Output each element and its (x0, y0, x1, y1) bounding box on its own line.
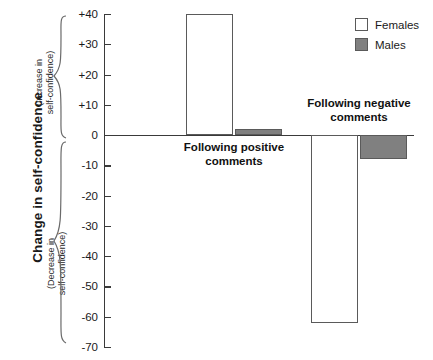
legend-label: Females (375, 19, 419, 31)
y-tick-mark (104, 75, 111, 76)
legend-swatch-females-icon (355, 18, 368, 31)
legend: FemalesMales (355, 18, 419, 58)
group-label-line1: Following positive (154, 141, 314, 155)
y-tick-mark (104, 14, 111, 15)
group-label-line2: comments (279, 111, 433, 125)
y-tick-mark (104, 317, 111, 318)
y-tick-label: -60 (81, 311, 98, 323)
bar-males-group2 (360, 135, 407, 159)
legend-item-females: Females (355, 18, 419, 31)
negative-region-brace (52, 140, 68, 345)
group-label-1: Following positivecomments (154, 141, 314, 168)
y-tick-label: +10 (78, 99, 98, 111)
y-axis-line (104, 14, 105, 347)
y-tick-label: -70 (81, 341, 98, 353)
group-label-line1: Following negative (279, 97, 433, 111)
y-tick-label: -30 (81, 220, 98, 232)
positive-region-brace (52, 14, 68, 140)
y-tick-label: +40 (78, 8, 98, 20)
legend-swatch-males-icon (355, 38, 368, 51)
group-label-2: Following negativecomments (279, 97, 433, 124)
y-tick-mark (104, 226, 111, 227)
y-tick-label: -40 (81, 250, 98, 262)
y-tick-mark (104, 196, 111, 197)
legend-item-males: Males (355, 38, 419, 51)
y-tick-label: +30 (78, 38, 98, 50)
bar-females-group2 (311, 135, 358, 323)
y-tick-mark (104, 44, 111, 45)
y-tick-label: -10 (81, 159, 98, 171)
bar-females-group1 (186, 14, 233, 135)
y-tick-label: -50 (81, 280, 98, 292)
y-tick-label: -20 (81, 190, 98, 202)
y-tick-mark (104, 165, 111, 166)
chart-container: Change in self-confidence (Increase in s… (0, 0, 433, 360)
y-tick-mark (104, 105, 111, 106)
y-tick-label: 0 (92, 129, 98, 141)
legend-label: Males (375, 39, 406, 51)
y-tick-mark (104, 286, 111, 287)
increase-note-line1: (Increase in (34, 59, 44, 106)
group-label-line2: comments (154, 155, 314, 169)
bar-males-group1 (235, 129, 282, 135)
y-tick-label: +20 (78, 69, 98, 81)
y-tick-mark (104, 256, 111, 257)
plot-area: +40+30+20+100-10-20-30-40-50-60-70 Follo… (104, 14, 414, 347)
y-tick-mark (104, 347, 111, 348)
